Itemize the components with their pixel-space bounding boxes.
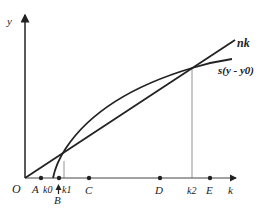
y-axis-label: y xyxy=(6,15,12,27)
point-d-label: D xyxy=(154,184,163,196)
savings-curve-label: s(y - y0) xyxy=(217,64,254,77)
point-k0-label: k0 xyxy=(43,184,52,195)
x-axis-label: k xyxy=(228,184,234,196)
point-e-label: E xyxy=(205,184,213,196)
savings-curve xyxy=(53,59,232,178)
point-e-dot xyxy=(208,176,212,180)
point-k1-label: k1 xyxy=(62,184,71,195)
point-c-dot xyxy=(87,176,91,180)
point-k1-dot xyxy=(57,176,61,180)
nk-label: nk xyxy=(237,36,250,50)
nk-line xyxy=(25,40,235,178)
diagram-canvas: y O k nk s(y - y0) A k0 k1 B C D k2 E xyxy=(0,0,269,210)
point-b-label: B xyxy=(54,194,61,206)
origin-label: O xyxy=(12,182,21,196)
point-a-dot xyxy=(39,176,43,180)
point-d-dot xyxy=(158,176,162,180)
point-c-label: C xyxy=(85,184,93,196)
point-a-label: A xyxy=(31,183,39,195)
point-k2-label: k2 xyxy=(187,185,196,196)
